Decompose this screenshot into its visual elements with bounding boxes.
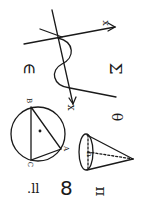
pi-symbol: π — [96, 184, 106, 199]
circle-center-dot — [39, 130, 41, 132]
vertex-label-b: B — [26, 97, 31, 104]
therefore-symbol: .ll — [27, 182, 39, 195]
axis-label-x: x — [103, 18, 109, 28]
sigma-symbol: Σ — [109, 60, 121, 77]
cone-slant-bottom — [87, 159, 133, 170]
vertex-label-a: A — [63, 145, 68, 152]
epsilon-symbol: ∈ — [23, 60, 36, 77]
circumcircle — [11, 107, 65, 161]
short-diagonal-line — [40, 29, 62, 37]
vertex-label-c: C — [27, 161, 32, 168]
horizontal-line — [24, 27, 115, 44]
cone-height-label: h — [86, 150, 91, 158]
theta-symbol: θ — [113, 110, 121, 124]
eight-symbol: 8 — [60, 178, 73, 198]
math-doodle: x ∈ Σ x θ B C A h .ll 8 π — [0, 0, 145, 212]
wave-label-x: x — [68, 102, 74, 113]
